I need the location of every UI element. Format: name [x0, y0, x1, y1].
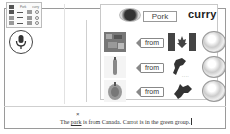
from-arrow-label: from [140, 87, 164, 97]
text-caret [191, 118, 192, 125]
meat-photo[interactable] [104, 31, 126, 53]
food-word-box[interactable]: Pork [143, 11, 177, 22]
legend-swatch [9, 16, 14, 20]
legend-swatch [9, 21, 14, 25]
legend-arrow-icon [17, 23, 23, 24]
legend-map-icon [27, 21, 32, 25]
onion-photo[interactable] [104, 80, 126, 102]
sentence-text[interactable]: The park is from Canada. Carrot is in th… [60, 118, 192, 125]
legend-panel: Pork curry [6, 2, 42, 28]
card-divider [86, 20, 87, 102]
food-group-globe[interactable] [202, 31, 226, 53]
carrot-photo[interactable] [104, 56, 126, 78]
from-arrow-label: from [140, 63, 164, 73]
canada-flag-icon[interactable] [168, 31, 196, 53]
microphone-button[interactable] [9, 30, 33, 54]
microphone-icon [14, 34, 28, 50]
hokkaido-map-icon[interactable] [168, 80, 196, 102]
legend-globe-icon [35, 16, 39, 20]
legend-swatch [9, 10, 14, 14]
ingredient-row: from [104, 80, 224, 104]
legend-arrow-icon [17, 17, 23, 18]
sentence-prefix: The [60, 119, 71, 125]
food-photo-header [119, 8, 141, 22]
legend-label: curry [32, 5, 39, 9]
dish-word: curry [188, 8, 217, 20]
new-zealand-map-icon[interactable]: - - - - [168, 56, 196, 78]
legend-flag-icon [27, 10, 32, 14]
misspelled-word[interactable]: park [71, 119, 82, 125]
ingredient-row: from - - - - [104, 56, 224, 80]
legend-globe-icon [35, 10, 39, 14]
sentence-rest: is from Canada. Carrot is in the green g… [82, 119, 191, 125]
legend-swatch [9, 5, 14, 9]
legend-arrow-icon [17, 12, 23, 13]
svg-text:- - - -: - - - - [182, 74, 189, 78]
ingredient-row: from [104, 31, 224, 55]
error-mark-icon: × [76, 111, 80, 117]
panel-divider [64, 4, 65, 104]
food-group-globe[interactable] [202, 56, 226, 78]
legend-row [9, 21, 39, 27]
legend-label: Pork [20, 5, 26, 9]
legend-map-icon [27, 16, 32, 20]
from-arrow-label: from [140, 38, 164, 48]
legend-globe-icon [35, 21, 39, 25]
food-group-globe[interactable] [202, 80, 226, 102]
